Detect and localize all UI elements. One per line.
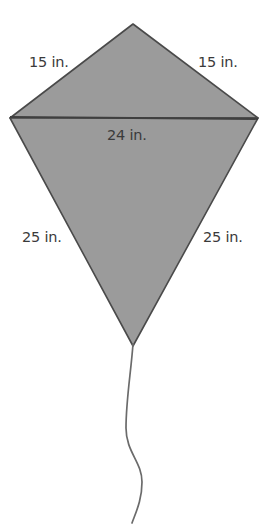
label-lower-left-side: 25 in. bbox=[22, 230, 62, 245]
kite-shape-svg bbox=[0, 0, 270, 528]
label-upper-right-side: 15 in. bbox=[198, 55, 238, 70]
kite-upper-triangle bbox=[10, 24, 258, 118]
label-lower-right-side: 25 in. bbox=[203, 230, 243, 245]
label-horizontal-diagonal: 24 in. bbox=[107, 128, 147, 143]
label-upper-left-side: 15 in. bbox=[29, 55, 69, 70]
kite-tail bbox=[126, 344, 142, 523]
kite-figure: 15 in. 15 in. 24 in. 25 in. 25 in. bbox=[0, 0, 270, 528]
